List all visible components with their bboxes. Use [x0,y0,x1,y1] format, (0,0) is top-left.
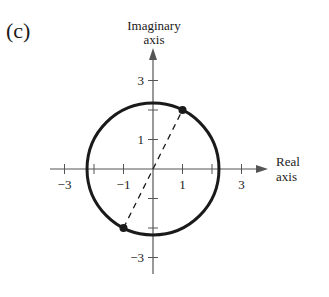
real-axis-arrow-icon [256,165,268,173]
point [179,106,187,114]
y-tick-label: 1 [138,132,145,147]
x-tick-label: 3 [238,177,245,192]
imaginary-axis-arrow-icon [149,48,157,60]
imaginary-axis-title: Imaginary [127,18,181,33]
y-tick-label: −3 [130,250,144,265]
x-tick-label: 1 [179,177,186,192]
imaginary-axis-title-line2: axis [144,32,165,47]
real-axis-title-line2: axis [276,169,297,184]
x-tick-label: −1 [117,177,131,192]
y-tick-label: 3 [138,73,145,88]
x-tick-label: −3 [58,177,72,192]
complex-plane-diagram: −3−11331−3ImaginaryaxisRealaxis [0,0,329,297]
point [120,224,128,232]
real-axis-title: Real [276,154,300,169]
